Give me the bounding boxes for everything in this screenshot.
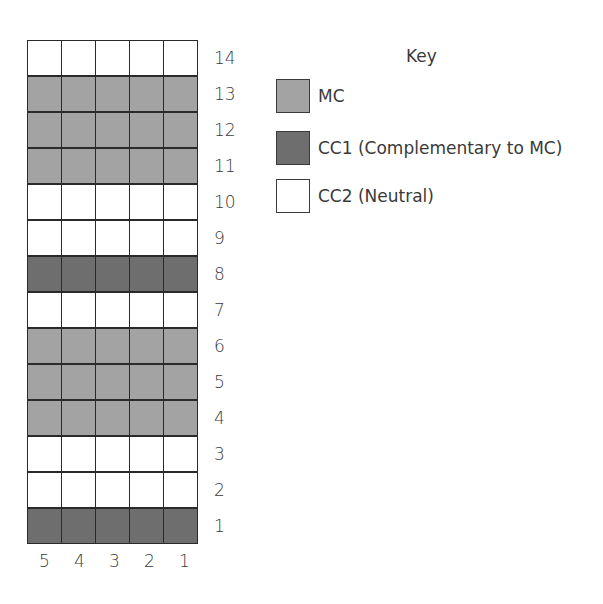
- row-number: 4: [214, 408, 225, 428]
- chart-cell: [163, 40, 198, 76]
- row-number: 13: [214, 84, 236, 104]
- chart-cell: [27, 328, 62, 364]
- key-label: CC2 (Neutral): [318, 186, 434, 206]
- chart-cell: [61, 508, 96, 544]
- chart-cell: [27, 256, 62, 292]
- column-number: 3: [97, 551, 132, 571]
- row-number: 10: [214, 192, 236, 212]
- chart-cell: [129, 76, 164, 112]
- chart-cell: [61, 148, 96, 184]
- chart-cell: [27, 292, 62, 328]
- chart-cell: [95, 508, 130, 544]
- chart-cell: [61, 472, 96, 508]
- chart-cell: [129, 292, 164, 328]
- row-number: 9: [214, 228, 225, 248]
- chart-cell: [61, 400, 96, 436]
- chart-grid: [27, 40, 197, 544]
- chart-cell: [95, 472, 130, 508]
- chart-cell: [163, 328, 198, 364]
- chart-row-12: [27, 112, 197, 148]
- chart-cell: [27, 364, 62, 400]
- chart-row-8: [27, 256, 197, 292]
- chart-cell: [129, 184, 164, 220]
- chart-cell: [129, 472, 164, 508]
- chart-row-10: [27, 184, 197, 220]
- chart-cell: [163, 364, 198, 400]
- key-label: MC: [318, 86, 345, 106]
- chart-row-3: [27, 436, 197, 472]
- cc1-swatch: [276, 131, 310, 165]
- chart-cell: [95, 148, 130, 184]
- chart-row-2: [27, 472, 197, 508]
- chart-cell: [95, 256, 130, 292]
- chart-row-5: [27, 364, 197, 400]
- column-number: 4: [62, 551, 97, 571]
- chart-cell: [129, 508, 164, 544]
- row-number: 5: [214, 372, 225, 392]
- chart-cell: [27, 220, 62, 256]
- row-number: 14: [214, 48, 236, 68]
- chart-cell: [129, 148, 164, 184]
- chart-cell: [163, 220, 198, 256]
- row-number: 3: [214, 444, 225, 464]
- chart-cell: [61, 76, 96, 112]
- chart-cell: [163, 400, 198, 436]
- chart-cell: [61, 364, 96, 400]
- chart-row-7: [27, 292, 197, 328]
- chart-cell: [163, 472, 198, 508]
- chart-cell: [61, 220, 96, 256]
- key-title: Key: [406, 46, 437, 66]
- key-label: CC1 (Complementary to MC): [318, 138, 562, 158]
- row-number: 7: [214, 300, 225, 320]
- key-item-cc1: CC1 (Complementary to MC): [276, 131, 562, 165]
- chart-cell: [163, 292, 198, 328]
- chart-cell: [95, 292, 130, 328]
- chart-cell: [95, 184, 130, 220]
- chart-row-4: [27, 400, 197, 436]
- row-number: 2: [214, 480, 225, 500]
- chart-cell: [27, 400, 62, 436]
- column-number: 1: [167, 551, 202, 571]
- key-item-mc: MC: [276, 79, 345, 113]
- chart-cell: [129, 256, 164, 292]
- chart-cell: [27, 76, 62, 112]
- chart-cell: [163, 184, 198, 220]
- key-item-cc2: CC2 (Neutral): [276, 179, 434, 213]
- chart-cell: [95, 364, 130, 400]
- chart-cell: [129, 328, 164, 364]
- chart-cell: [27, 508, 62, 544]
- row-number: 11: [214, 156, 236, 176]
- chart-cell: [61, 40, 96, 76]
- chart-cell: [27, 112, 62, 148]
- chart-cell: [27, 184, 62, 220]
- chart-cell: [27, 436, 62, 472]
- chart-cell: [129, 364, 164, 400]
- chart-cell: [163, 508, 198, 544]
- chart-cell: [129, 400, 164, 436]
- chart-cell: [163, 256, 198, 292]
- chart-cell: [95, 112, 130, 148]
- mc-swatch: [276, 79, 310, 113]
- chart-cell: [61, 328, 96, 364]
- chart-cell: [95, 400, 130, 436]
- row-number: 6: [214, 336, 225, 356]
- chart-cell: [61, 256, 96, 292]
- chart-row-13: [27, 76, 197, 112]
- chart-cell: [129, 436, 164, 472]
- chart-cell: [163, 436, 198, 472]
- cc2-swatch: [276, 179, 310, 213]
- chart-cell: [95, 40, 130, 76]
- chart-cell: [61, 436, 96, 472]
- chart-cell: [95, 436, 130, 472]
- chart-cell: [95, 328, 130, 364]
- chart-cell: [129, 112, 164, 148]
- row-number: 1: [214, 516, 225, 536]
- chart-cell: [163, 76, 198, 112]
- chart-cell: [27, 148, 62, 184]
- row-number: 8: [214, 264, 225, 284]
- chart-row-6: [27, 328, 197, 364]
- chart-cell: [163, 112, 198, 148]
- chart-cell: [27, 472, 62, 508]
- chart-cell: [61, 184, 96, 220]
- chart-cell: [95, 220, 130, 256]
